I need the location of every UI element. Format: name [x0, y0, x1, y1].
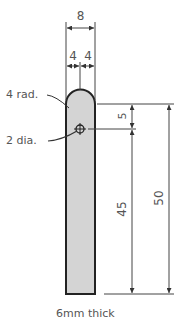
hole-to-bottom-label: 45	[115, 201, 129, 216]
thickness-note: 6mm thick	[56, 307, 115, 320]
overall-width-label: 8	[77, 9, 85, 23]
technical-drawing: 8 4 4 5 45 50 4 rad. 2 dia. 6mm thick	[0, 0, 182, 320]
overall-length-label: 50	[152, 190, 166, 205]
half-width-right-label: 4	[84, 49, 92, 63]
radius-label: 4 rad.	[6, 88, 38, 101]
hole-label: 2 dia.	[6, 134, 37, 147]
half-width-left-label: 4	[69, 49, 77, 63]
hole-to-top-label: 5	[116, 113, 129, 120]
part-outline	[66, 90, 95, 295]
